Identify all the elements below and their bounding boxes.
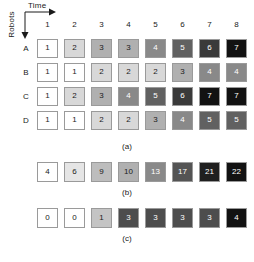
heatmap-cell: 1	[37, 63, 58, 82]
heatmap-cell: 5	[172, 39, 193, 58]
heatmap-cell: 0	[64, 208, 85, 228]
y-axis-label: Robots	[7, 5, 16, 45]
heatmap-cell: 21	[199, 162, 220, 182]
heatmap-cell: 13	[145, 162, 166, 182]
column-header: 2	[61, 20, 88, 29]
heatmap-row: B11222344	[18, 60, 250, 84]
heatmap-row-cells: 12345677	[34, 87, 250, 106]
heatmap-cell: 2	[64, 87, 85, 106]
heatmap-cell: 7	[199, 87, 220, 106]
column-header: 1	[34, 20, 61, 29]
row-label: A	[18, 44, 34, 53]
heatmap-cell: 4	[172, 111, 193, 130]
heatmap-cell: 2	[145, 63, 166, 82]
heatmap-cell: 2	[118, 63, 139, 82]
column-header: 6	[169, 20, 196, 29]
heatmap-cell: 2	[118, 111, 139, 130]
heatmap-cell: 3	[91, 87, 112, 106]
heatmap-cell: 0	[37, 208, 58, 228]
heatmap-strip-b: 4691013172122	[34, 162, 250, 182]
heatmap-cell: 4	[226, 208, 247, 228]
heatmap-row: A12334567	[18, 36, 250, 60]
heatmap-cell: 3	[145, 111, 166, 130]
heatmap-cell: 1	[91, 208, 112, 228]
column-header: 8	[223, 20, 250, 29]
row-label: D	[18, 116, 34, 125]
column-header: 3	[88, 20, 115, 29]
column-header-row: 12345678	[34, 20, 250, 29]
heatmap-cell: 3	[91, 39, 112, 58]
caption-b: (b)	[0, 188, 254, 197]
heatmap-cell: 7	[226, 87, 247, 106]
column-header: 5	[142, 20, 169, 29]
heatmap-cell: 17	[172, 162, 193, 182]
heatmap-cell: 3	[118, 39, 139, 58]
heatmap-cell: 3	[199, 208, 220, 228]
heatmap-cell: 22	[226, 162, 247, 182]
heatmap-cell: 3	[145, 208, 166, 228]
row-label: C	[18, 92, 34, 101]
heatmap-row: D11223455	[18, 108, 250, 132]
x-axis-label: Time	[28, 1, 46, 10]
heatmap-cell: 7	[226, 39, 247, 58]
column-header: 7	[196, 20, 223, 29]
heatmap-row: C12345677	[18, 84, 250, 108]
heatmap-grid-a: A12334567B11222344C12345677D11223455	[18, 36, 250, 132]
heatmap-cell: 4	[199, 63, 220, 82]
heatmap-cell: 2	[64, 39, 85, 58]
heatmap-cell: 1	[64, 63, 85, 82]
heatmap-cell: 1	[37, 39, 58, 58]
column-header: 4	[115, 20, 142, 29]
caption-c: (c)	[0, 234, 254, 243]
heatmap-cell: 6	[64, 162, 85, 182]
heatmap-row-cells: 11222344	[34, 63, 250, 82]
heatmap-cell: 2	[91, 63, 112, 82]
heatmap-row-cells: 11223455	[34, 111, 250, 130]
heatmap-cell: 3	[172, 208, 193, 228]
heatmap-cell: 6	[199, 39, 220, 58]
heatmap-cell: 10	[118, 162, 139, 182]
heatmap-cell: 4	[118, 87, 139, 106]
heatmap-cell: 3	[118, 208, 139, 228]
heatmap-cell: 3	[172, 63, 193, 82]
heatmap-cell: 5	[199, 111, 220, 130]
heatmap-cell: 5	[226, 111, 247, 130]
caption-a: (a)	[0, 142, 254, 151]
row-label: B	[18, 68, 34, 77]
heatmap-cell: 9	[91, 162, 112, 182]
heatmap-row-cells: 12334567	[34, 39, 250, 58]
heatmap-cell: 6	[172, 87, 193, 106]
heatmap-cell: 2	[91, 111, 112, 130]
heatmap-strip-c: 00133334	[34, 208, 250, 228]
heatmap-cell: 4	[37, 162, 58, 182]
heatmap-cell: 4	[226, 63, 247, 82]
heatmap-cell: 1	[64, 111, 85, 130]
heatmap-cell: 5	[145, 87, 166, 106]
heatmap-cell: 4	[145, 39, 166, 58]
heatmap-cell: 1	[37, 111, 58, 130]
heatmap-cell: 1	[37, 87, 58, 106]
